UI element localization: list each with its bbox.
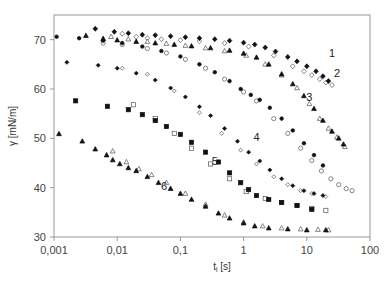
data-point: [213, 70, 217, 74]
y-tick-label: 50: [34, 132, 46, 144]
x-tick-label: 0,001: [40, 244, 68, 256]
data-point: [344, 187, 348, 191]
data-point: [101, 39, 105, 43]
x-tick-label: 10: [301, 244, 313, 256]
curve-label-3: 3: [306, 91, 312, 103]
data-point: [286, 131, 290, 135]
data-point: [131, 103, 135, 107]
data-point: [280, 200, 284, 204]
data-point: [267, 197, 271, 201]
data-point: [295, 203, 299, 207]
data-point: [160, 49, 164, 53]
data-point: [189, 146, 193, 150]
data-point: [268, 106, 272, 110]
data-point: [178, 132, 182, 136]
y-tick-label: 40: [34, 182, 46, 194]
data-point: [140, 113, 144, 117]
data-point: [239, 181, 243, 185]
data-point: [254, 193, 258, 197]
curve-label-6: 6: [161, 180, 167, 192]
data-point: [77, 36, 81, 40]
data-point: [249, 93, 253, 97]
data-point: [321, 164, 325, 168]
x-tick-label: 1: [241, 244, 247, 256]
data-point: [198, 63, 202, 67]
data-point: [291, 129, 295, 133]
x-tick-label: 100: [361, 244, 379, 256]
data-point: [74, 99, 78, 103]
data-point: [312, 153, 316, 157]
data-point: [299, 146, 303, 150]
y-tick-label: 60: [34, 83, 46, 95]
data-point: [222, 77, 226, 81]
data-point: [189, 140, 193, 144]
data-point: [239, 87, 243, 91]
data-point: [227, 177, 231, 181]
data-point: [179, 55, 183, 59]
y-tick-label: 70: [34, 34, 46, 46]
y-axis-title: γ [mN/m]: [7, 106, 18, 146]
data-point: [120, 41, 124, 45]
data-point: [247, 188, 251, 192]
data-point: [329, 177, 333, 181]
data-point: [183, 57, 187, 61]
data-point: [203, 66, 207, 70]
data-point: [164, 51, 168, 55]
data-point: [258, 98, 262, 102]
data-point: [228, 79, 232, 83]
curve-label-5: 5: [212, 155, 218, 167]
data-point: [203, 150, 207, 154]
x-tick-label: 0,01: [106, 244, 127, 256]
curve-label-4: 4: [253, 131, 259, 143]
data-point: [55, 35, 59, 39]
data-point: [319, 169, 323, 173]
data-point: [337, 183, 341, 187]
x-tick-label: 0,1: [173, 244, 188, 256]
y-tick-label: 30: [34, 231, 46, 243]
data-point: [310, 158, 314, 162]
data-point: [302, 141, 306, 145]
data-point: [350, 189, 354, 193]
data-point: [164, 124, 168, 128]
data-point: [227, 171, 231, 175]
data-point: [105, 104, 109, 108]
data-point: [324, 208, 328, 212]
data-point: [280, 117, 284, 121]
data-point: [153, 118, 157, 122]
data-point: [272, 117, 276, 121]
x-axis-title: tl [s]: [213, 261, 231, 273]
data-point: [310, 207, 314, 211]
data-point: [145, 46, 149, 50]
data-point: [126, 108, 130, 112]
curve-label-2: 2: [334, 67, 340, 79]
curve-label-1: 1: [329, 47, 335, 59]
data-point: [172, 131, 176, 135]
data-point: [141, 45, 145, 49]
surface-tension-chart: 0,0010,010,11101003040506070 123456 γ [m…: [0, 0, 391, 288]
